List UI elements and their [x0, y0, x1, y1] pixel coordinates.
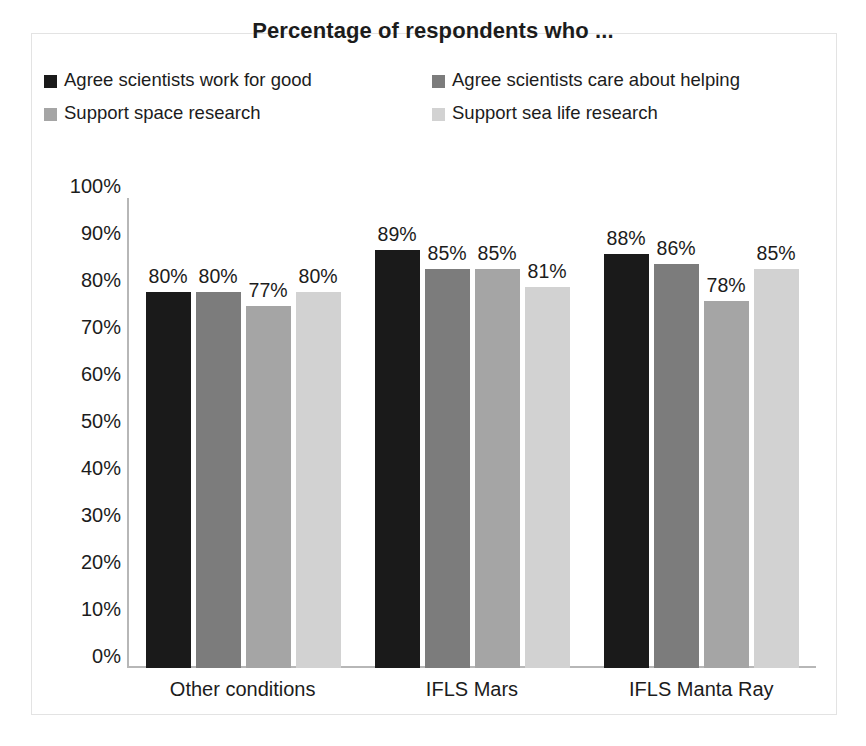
legend-item-label: Support sea life research: [452, 102, 658, 124]
y-axis-tick-label: 10%: [81, 598, 121, 621]
bar-column: 85%: [475, 198, 520, 668]
legend-item[interactable]: Support sea life research: [404, 102, 764, 124]
legend-swatch-icon: [44, 75, 57, 88]
bar[interactable]: [296, 292, 341, 668]
bar-value-label: 85%: [428, 242, 467, 265]
bar[interactable]: [704, 301, 749, 668]
bar-column: 80%: [196, 198, 241, 668]
x-axis-category-label: Other conditions: [128, 678, 357, 701]
legend-swatch-icon: [44, 108, 57, 121]
bar-column: 85%: [425, 198, 470, 668]
bar-value-label: 85%: [478, 242, 517, 265]
bar[interactable]: [375, 250, 420, 668]
bar-column: 89%: [375, 198, 420, 668]
bar-value-label: 80%: [299, 265, 338, 288]
y-axis-tick-label: 70%: [81, 316, 121, 339]
bar-value-label: 89%: [378, 223, 417, 246]
legend-item-label: Agree scientists care about helping: [452, 69, 740, 91]
bar-column: 80%: [296, 198, 341, 668]
bar-column: 86%: [654, 198, 699, 668]
y-axis-tick-label: 90%: [81, 222, 121, 245]
bar-value-label: 78%: [707, 274, 746, 297]
legend-swatch-icon: [432, 108, 445, 121]
legend-swatch-icon: [432, 75, 445, 88]
bar[interactable]: [425, 269, 470, 669]
bar-group: 80%80%77%80%: [129, 198, 358, 668]
y-axis-tick-labels: 100%90%80%70%60%50%40%30%20%10%0%: [39, 186, 121, 656]
y-axis-tick-label: 50%: [81, 410, 121, 433]
bar-group-bars: 88%86%78%85%: [587, 198, 816, 668]
y-axis-tick-label: 60%: [81, 363, 121, 386]
y-axis-tick-label: 100%: [70, 175, 121, 198]
bar[interactable]: [604, 254, 649, 668]
bar-groups: 80%80%77%80%89%85%85%81%88%86%78%85%: [129, 198, 816, 668]
plot-area: 80%80%77%80%89%85%85%81%88%86%78%85%: [127, 198, 816, 668]
chart-legend: Agree scientists work for goodAgree scie…: [44, 69, 764, 124]
bar-column: 81%: [525, 198, 570, 668]
legend-item[interactable]: Support space research: [44, 102, 404, 124]
legend-item[interactable]: Agree scientists work for good: [44, 69, 404, 91]
legend-item-label: Agree scientists work for good: [64, 69, 312, 91]
bar-value-label: 85%: [757, 242, 796, 265]
bar[interactable]: [475, 269, 520, 669]
bar-value-label: 80%: [199, 265, 238, 288]
bar-value-label: 86%: [657, 237, 696, 260]
bar[interactable]: [246, 306, 291, 668]
bar-group-bars: 80%80%77%80%: [129, 198, 358, 668]
y-axis-tick-label: 40%: [81, 457, 121, 480]
bar-column: 85%: [754, 198, 799, 668]
bar-group-bars: 89%85%85%81%: [358, 198, 587, 668]
y-axis-tick-label: 80%: [81, 269, 121, 292]
bar-column: 78%: [704, 198, 749, 668]
bar[interactable]: [754, 269, 799, 669]
x-axis-category-label: IFLS Mars: [357, 678, 586, 701]
bar-group: 89%85%85%81%: [358, 198, 587, 668]
legend-item[interactable]: Agree scientists care about helping: [404, 69, 764, 91]
bar-column: 80%: [146, 198, 191, 668]
y-axis-tick-label: 30%: [81, 504, 121, 527]
chart-title: Percentage of respondents who ...: [0, 18, 866, 44]
y-axis-tick-label: 0%: [92, 645, 121, 668]
bar-value-label: 81%: [528, 260, 567, 283]
bar[interactable]: [146, 292, 191, 668]
legend-item-label: Support space research: [64, 102, 260, 124]
bar-value-label: 80%: [149, 265, 188, 288]
bar[interactable]: [196, 292, 241, 668]
bar-column: 88%: [604, 198, 649, 668]
y-axis-tick-label: 20%: [81, 551, 121, 574]
x-axis-category-label: IFLS Manta Ray: [587, 678, 816, 701]
bar[interactable]: [654, 264, 699, 668]
x-axis-category-labels: Other conditionsIFLS MarsIFLS Manta Ray: [128, 678, 816, 701]
bar-value-label: 88%: [607, 227, 646, 250]
bar-group: 88%86%78%85%: [587, 198, 816, 668]
bar[interactable]: [525, 287, 570, 668]
bar-value-label: 77%: [249, 279, 288, 302]
bar-column: 77%: [246, 198, 291, 668]
